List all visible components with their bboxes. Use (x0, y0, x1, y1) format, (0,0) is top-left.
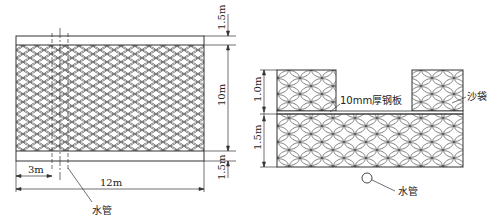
diagram-canvas: 1.5m 10m 1.5m 3m 12m 水管 (0, 0, 502, 221)
sandbag-base (277, 114, 463, 167)
dim-lower-label: 1.5m (252, 124, 263, 150)
sandbag-label: 沙袋 (467, 90, 487, 102)
dim-offset-label: 3m (28, 164, 44, 175)
plan-view: 1.5m 10m 1.5m 3m 12m 水管 (16, 4, 236, 216)
sandbag-block-right (412, 70, 463, 111)
dim-width-label: 12m (100, 177, 123, 188)
dim-top-label: 1.5m (216, 4, 227, 30)
sandbag-fill-plan (16, 45, 204, 151)
dim-bottom-label: 1.5m (216, 154, 227, 180)
dim-middle-label: 10m (216, 83, 227, 106)
pipe-label-plan: 水管 (92, 204, 112, 216)
section-view: 1.0m 1.5m 10mm厚钢板 沙袋 水管 (252, 70, 487, 197)
water-pipe-circle (362, 173, 372, 183)
dim-upper-label: 1.0m (252, 76, 263, 102)
steel-plate-label: 10mm厚钢板 (340, 94, 402, 106)
pipe-label-section: 水管 (398, 185, 418, 197)
sandbag-block-left (277, 70, 336, 111)
pipe-leader-line (68, 168, 92, 202)
